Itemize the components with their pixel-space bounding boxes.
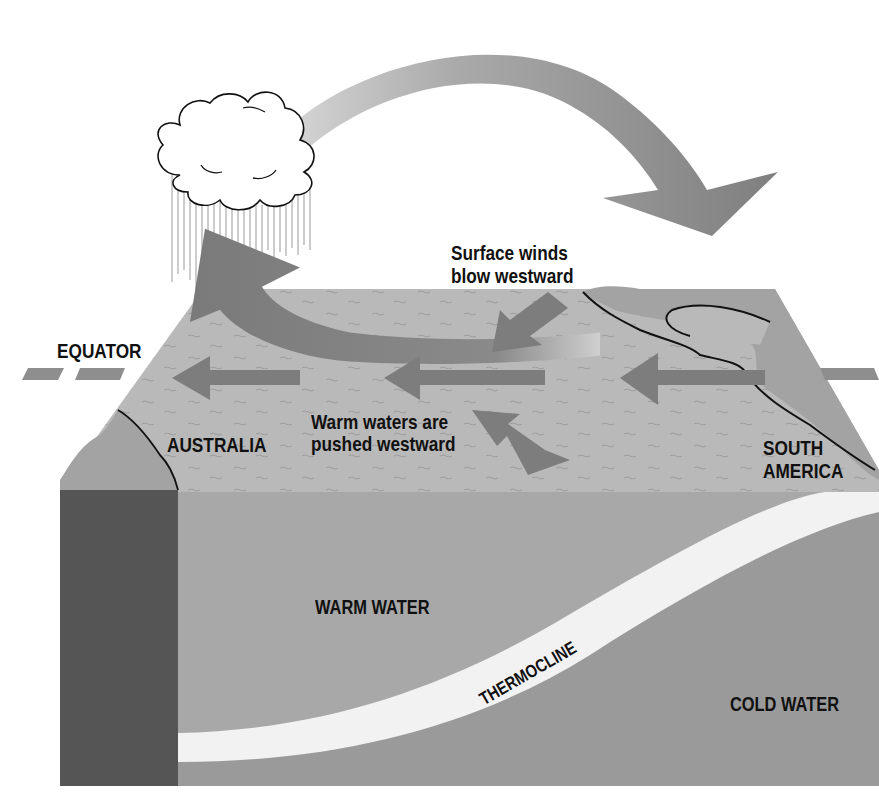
australia-cross-section <box>60 490 178 786</box>
warm-waters-label-line1: Warm waters are <box>311 411 448 433</box>
equator-label: EQUATOR <box>57 340 142 362</box>
warm-water-label: WARM WATER <box>315 597 429 618</box>
surface-winds-label-line1: Surface winds <box>451 242 568 264</box>
cold-water-label: COLD WATER <box>730 694 839 715</box>
south-america-label-line1: SOUTH <box>763 437 823 459</box>
el-nino-diagram: EQUATOR Surface winds blow westward Warm… <box>0 0 879 806</box>
south-america-label-line2: AMERICA <box>763 460 843 482</box>
ocean-cross-section <box>60 490 879 786</box>
warm-waters-label-line2: pushed westward <box>311 433 455 455</box>
australia-label: AUSTRALIA <box>167 434 266 456</box>
walker-circulation-arrow <box>286 55 778 236</box>
diagram-graphics <box>0 0 879 806</box>
surface-winds-label-line2: blow westward <box>451 265 573 287</box>
